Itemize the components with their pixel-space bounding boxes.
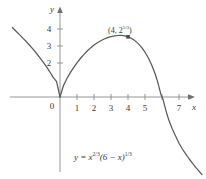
equation-exponent-2: 1/3	[125, 151, 132, 157]
origin-tick-label: 0	[47, 102, 57, 111]
x-tick-label-4: 4	[123, 104, 133, 113]
local-max-point-label: (4, 25/3)	[108, 26, 132, 35]
equation-lhs: y = x	[74, 152, 93, 162]
x-tick-label-2: 2	[89, 104, 99, 113]
y-axis-label: y	[50, 5, 54, 14]
point-label-open: (4, 2	[108, 26, 123, 35]
equation-label: y = x2/3(6 − x)1/3	[74, 152, 132, 162]
x-axis-label: x	[192, 103, 196, 112]
x-tick-label-5: 5	[140, 104, 150, 113]
x-axis	[10, 94, 195, 100]
x-tick-label-7: 7	[174, 104, 184, 113]
equation-mid: (6 − x)	[100, 152, 125, 162]
y-tick-label-4: 4	[44, 25, 54, 34]
x-tick-label-3: 3	[106, 104, 116, 113]
graph-figure: y x 0 1 2 3 4 5 7 2 3 4 (4, 25/3) y = x2…	[0, 0, 206, 179]
point-label-close: )	[129, 26, 132, 35]
equation-exponent-1: 2/3	[93, 151, 100, 157]
local-max-point-marker	[126, 35, 130, 39]
y-tick-label-3: 3	[44, 42, 54, 51]
x-tick-label-1: 1	[72, 104, 82, 113]
y-tick-label-2: 2	[44, 59, 54, 68]
